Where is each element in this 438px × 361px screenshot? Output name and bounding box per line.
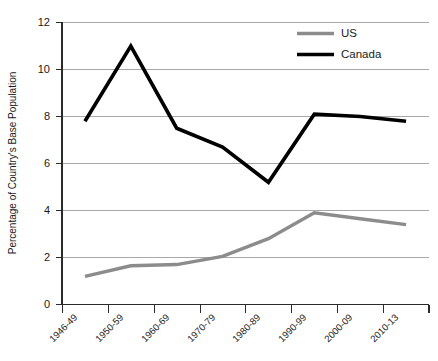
series-group (85, 46, 406, 276)
x-tick-label-5: 1990-99 (276, 312, 308, 344)
x-tick-label-0: 1946-49 (47, 312, 79, 344)
chart-canvas: 12 10 8 6 4 2 0 Percentage of Country's … (0, 0, 438, 361)
y-tick-label-8: 8 (44, 110, 50, 122)
y-tick-label-10: 10 (38, 63, 50, 75)
y-tick-label-0: 0 (44, 298, 50, 310)
x-tick-label-7: 2010-13 (368, 312, 400, 344)
y-axis: 12 10 8 6 4 2 0 Percentage of Country's … (7, 16, 62, 310)
y-tick-label-2: 2 (44, 251, 50, 263)
y-tick-label-6: 6 (44, 157, 50, 169)
line-chart: 12 10 8 6 4 2 0 Percentage of Country's … (0, 0, 438, 361)
legend-label-us: US (341, 27, 357, 39)
series-line-canada (85, 46, 406, 182)
legend-label-canada: Canada (341, 48, 382, 60)
y-tick-label-12: 12 (38, 16, 50, 28)
x-tick-label-1: 1950-59 (93, 312, 125, 344)
x-tick-label-6: 2000-09 (322, 312, 354, 344)
x-axis: 1946-49 1950-59 1960-69 1970-79 1980-89 … (47, 305, 429, 345)
series-line-us (85, 213, 406, 276)
x-tick-label-4: 1980-89 (230, 312, 262, 344)
y-axis-title: Percentage of Country's Base Population (7, 72, 18, 255)
legend: US Canada (297, 27, 382, 60)
x-tick-label-2: 1960-69 (139, 312, 171, 344)
x-tick-label-3: 1970-79 (185, 312, 217, 344)
y-tick-label-4: 4 (44, 204, 50, 216)
